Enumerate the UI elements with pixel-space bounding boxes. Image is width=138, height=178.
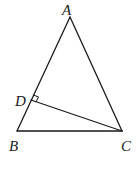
diagram-canvas: A D B C xyxy=(0,0,138,178)
segment-ac xyxy=(70,17,122,131)
label-c: C xyxy=(121,138,132,154)
triangle-diagram: A D B C xyxy=(0,0,138,178)
segment-ab xyxy=(17,17,70,131)
label-b: B xyxy=(9,138,18,154)
label-d: D xyxy=(14,93,26,109)
segment-cd xyxy=(31,100,122,131)
label-a: A xyxy=(61,2,72,18)
